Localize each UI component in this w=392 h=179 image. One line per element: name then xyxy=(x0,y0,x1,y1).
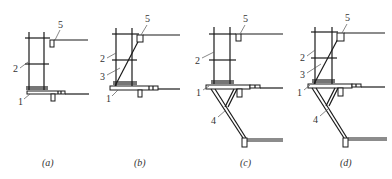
diagonal-brace xyxy=(314,35,340,84)
wall-tie-box xyxy=(137,35,143,42)
wall-tie-box xyxy=(236,34,241,41)
leader-4 xyxy=(320,109,328,116)
leader-2 xyxy=(20,62,28,68)
label-3: 3 xyxy=(100,71,105,82)
panel-d: 5 2 3 1 4 (d) xyxy=(297,12,387,169)
wall-tie-box xyxy=(50,40,54,47)
label-2: 2 xyxy=(13,63,18,74)
caption-a: (a) xyxy=(42,157,54,169)
label-4: 4 xyxy=(211,115,216,126)
scaffold-diagram: 5 2 1 (a) 5 2 3 1 (b) xyxy=(0,0,392,179)
leader-1 xyxy=(112,90,118,96)
label-1: 1 xyxy=(18,96,23,107)
leader-2 xyxy=(202,52,214,58)
label-1: 1 xyxy=(196,87,201,98)
leader-2 xyxy=(307,50,315,56)
caption-b: (b) xyxy=(134,157,146,169)
label-5: 5 xyxy=(58,19,63,30)
label-5: 5 xyxy=(243,13,248,24)
lower-anchor-box xyxy=(242,138,247,147)
label-1: 1 xyxy=(106,93,111,104)
wall-tie-box xyxy=(337,33,344,41)
anchor-box xyxy=(51,94,55,101)
leader-2 xyxy=(107,53,116,58)
panel-b: 5 2 3 1 (b) xyxy=(100,13,180,169)
label-5: 5 xyxy=(145,13,150,24)
label-5: 5 xyxy=(345,12,350,23)
diagonal-brace xyxy=(115,36,141,86)
caption-d: (d) xyxy=(340,157,352,169)
leader-1 xyxy=(24,94,30,99)
label-4: 4 xyxy=(313,114,318,125)
leader-5 xyxy=(240,25,245,34)
label-1: 1 xyxy=(297,87,302,98)
panel-a: 5 2 1 (a) xyxy=(13,19,89,169)
leader-3 xyxy=(307,64,321,73)
caption-c: (c) xyxy=(240,157,252,169)
base-platform xyxy=(110,86,158,90)
base-platform xyxy=(206,85,250,89)
base-platform xyxy=(308,84,352,88)
base-platform xyxy=(27,91,65,94)
label-2: 2 xyxy=(300,52,305,63)
label-3: 3 xyxy=(300,69,305,80)
leader-5 xyxy=(55,30,60,40)
anchor-box xyxy=(138,90,142,97)
leader-5 xyxy=(342,24,347,33)
anchor-box xyxy=(338,88,343,96)
lower-anchor-box xyxy=(343,138,348,147)
label-2: 2 xyxy=(100,53,105,64)
leader-5 xyxy=(141,25,147,35)
label-2: 2 xyxy=(195,55,200,66)
panel-c: 5 2 1 4 (c) xyxy=(195,13,283,169)
anchor-box xyxy=(237,89,242,97)
leader-3 xyxy=(107,68,120,75)
leader-4 xyxy=(218,110,226,117)
